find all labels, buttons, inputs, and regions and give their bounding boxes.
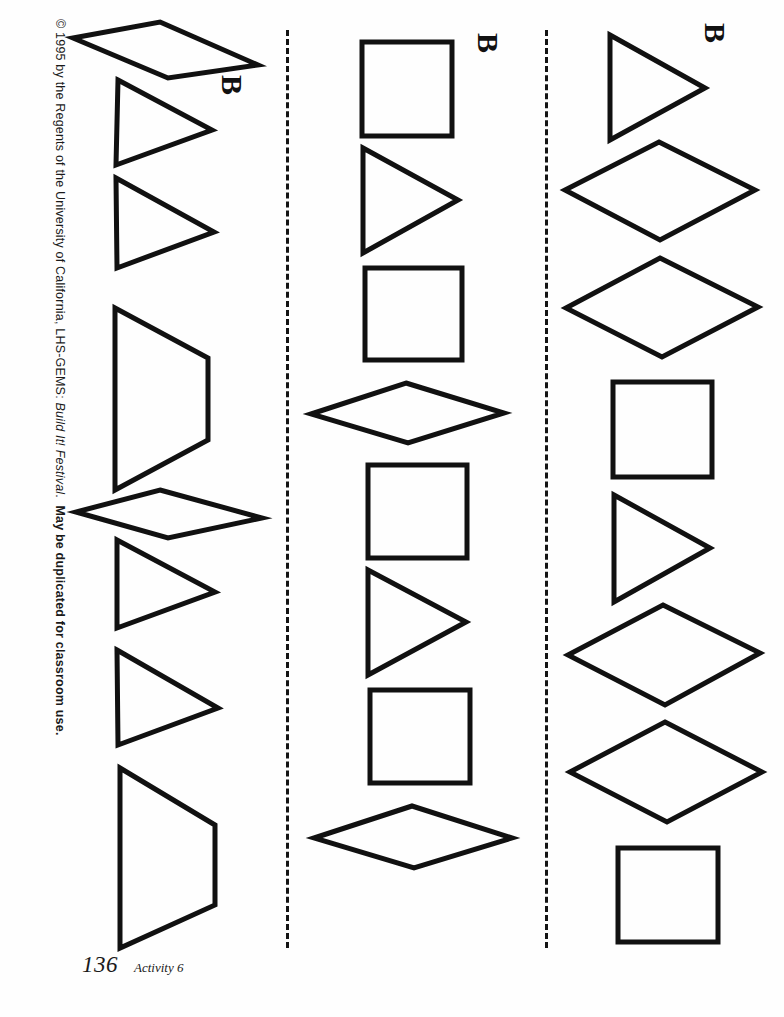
- shape-square: [368, 465, 467, 558]
- shape-triangle: [610, 35, 705, 140]
- shape-square: [362, 42, 452, 136]
- column-2-label: B: [473, 33, 503, 53]
- shape-rhombus: [311, 383, 504, 443]
- column-divider-left: [286, 30, 289, 948]
- shape-square: [365, 268, 462, 360]
- shape-triangle: [363, 148, 458, 253]
- shape-trapezoid: [115, 308, 208, 490]
- column-1-label: B: [217, 75, 247, 95]
- shape-triangle: [117, 650, 218, 745]
- page-footer: 136 Activity 6: [82, 952, 183, 978]
- column-1-shapes: [73, 22, 262, 948]
- shape-rhombus: [314, 806, 512, 868]
- shape-rhombus: [570, 722, 762, 822]
- copyright-duplication-permission: May be duplicated for classroom use.: [53, 505, 67, 735]
- shape-artwork: [0, 0, 784, 1017]
- shape-triangle: [116, 178, 214, 268]
- shape-trapezoid: [120, 768, 215, 948]
- shape-rhombus: [565, 142, 755, 240]
- shape-rhombus: [76, 490, 262, 538]
- column-divider-right: [545, 30, 548, 948]
- shape-triangle: [614, 495, 710, 602]
- shape-rhombus: [568, 605, 760, 705]
- column-3-shapes: [565, 35, 762, 942]
- copyright-prefix: © 1995 by the Regents of the University …: [53, 19, 67, 403]
- shape-rhombus: [73, 22, 258, 78]
- shape-square: [370, 690, 470, 783]
- page-number: 136: [82, 952, 118, 978]
- copyright-notice: © 1995 by the Regents of the University …: [53, 19, 67, 779]
- worksheet-page: © 1995 by the Regents of the University …: [0, 0, 784, 1017]
- shape-triangle: [116, 80, 212, 165]
- shape-triangle: [368, 570, 466, 675]
- copyright-suffix: .: [53, 494, 67, 498]
- column-2-shapes: [311, 42, 512, 868]
- column-3-label: B: [700, 23, 730, 43]
- activity-label: Activity 6: [134, 960, 183, 976]
- shape-square: [613, 382, 712, 477]
- shape-square: [618, 848, 718, 942]
- copyright-publication-title: Build It! Festival: [53, 403, 67, 495]
- shape-rhombus: [566, 258, 758, 357]
- shape-triangle: [117, 540, 215, 628]
